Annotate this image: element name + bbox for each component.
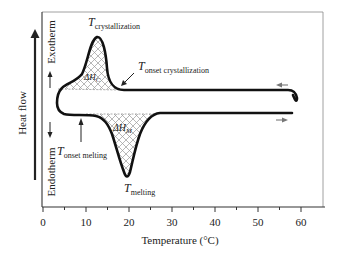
x-tick-20: 20 [124,216,136,228]
x-axis-label: Temperature (°C) [141,234,219,247]
onset-melting-pointer-arrow-icon [79,118,84,142]
t-melting-label: Tmelting [124,181,155,197]
cooling-direction-arrow-icon [276,83,288,88]
y-axis-label: Heat flow [16,91,28,135]
plot-frame [42,12,325,207]
x-tick-0: 0 [40,216,46,228]
t-onset-crystallization-label: Tonset crystallization [138,59,209,75]
x-axis-ticks [43,207,301,212]
t-crystallization-label: Tcrystallization [88,15,140,31]
x-axis-tick-labels: 0 10 20 30 40 50 60 [40,216,307,228]
exotherm-up-arrow-icon [48,71,53,88]
endotherm-label: Endotherm [45,147,57,196]
endotherm-down-arrow-icon [48,122,53,138]
x-tick-10: 10 [81,216,93,228]
x-tick-60: 60 [296,216,308,228]
exotherm-label: Exotherm [45,20,57,64]
heating-direction-arrow-icon [276,118,288,123]
x-tick-30: 30 [167,216,179,228]
onset-crystallization-pointer-arrow-icon [121,73,134,86]
dsc-thermogram-chart: 0 10 20 30 40 50 60 Temperature (°C) Hea… [0,0,340,255]
t-onset-melting-label: Tonset melting [57,144,107,160]
x-tick-50: 50 [253,216,265,228]
heat-flow-arrow-icon [31,29,40,180]
x-tick-40: 40 [210,216,222,228]
